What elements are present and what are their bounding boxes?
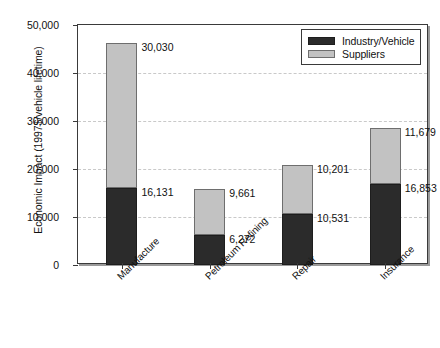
y-tick-mark [73,73,78,74]
bar-segment-suppliers [370,128,401,184]
data-label-suppliers: 9,661 [229,187,255,199]
y-tick-label: 10,000 [27,211,59,223]
y-tick-label: 20,000 [27,163,59,175]
y-axis-title: Economic Impact (1997$/vehicle lifetime) [32,10,44,270]
data-label-industry-vehicle: 10,531 [317,212,349,224]
data-label-industry-vehicle: 16,131 [141,186,173,198]
bar-segment-suppliers [194,189,225,235]
y-tick-mark [73,25,78,26]
bar-segment-industry-vehicle [106,188,137,265]
y-tick-label: 30,000 [27,115,59,127]
legend-item-industry-vehicle: Industry/Vehicle [308,34,414,47]
bar-segment-industry-vehicle [370,184,401,265]
legend-swatch-icon-suppliers [308,50,335,58]
legend-label-industry-vehicle: Industry/Vehicle [342,35,415,47]
economic-impact-stacked-bar-chart: Economic Impact (1997$/vehicle lifetime)… [0,0,440,348]
y-tick-mark [73,265,78,266]
data-label-industry-vehicle: 16,853 [405,182,437,194]
bar-segment-suppliers [282,165,313,214]
y-tick-mark [73,121,78,122]
legend: Industry/Vehicle Suppliers [301,29,421,65]
y-tick-label: 0 [53,259,59,271]
data-label-suppliers: 10,201 [317,163,349,175]
legend-label-suppliers: Suppliers [342,48,385,60]
bar-segment-suppliers [106,43,137,187]
data-label-suppliers: 11,679 [405,126,436,138]
data-label-suppliers: 30,030 [141,41,173,53]
plot-right-shadow [428,26,430,266]
legend-item-suppliers: Suppliers [308,47,414,60]
legend-swatch-icon-industry-vehicle [308,37,335,45]
y-tick-mark [73,169,78,170]
y-tick-mark [73,217,78,218]
y-tick-label: 50,000 [27,19,59,31]
y-tick-label: 40,000 [27,67,59,79]
